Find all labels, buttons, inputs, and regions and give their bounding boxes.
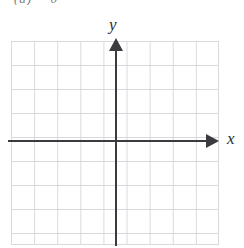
x-axis-label: x: [227, 130, 235, 147]
y-axis-arrow-icon: [109, 38, 123, 51]
x-axis-line: [8, 140, 212, 142]
coordinate-plane-figure: (a) = 0 y x: [0, 0, 244, 248]
y-axis-label: y: [109, 16, 117, 33]
clipped-header-text: (a) = 0: [14, 0, 104, 5]
y-axis-line: [115, 48, 117, 246]
x-axis-arrow-icon: [206, 134, 219, 148]
